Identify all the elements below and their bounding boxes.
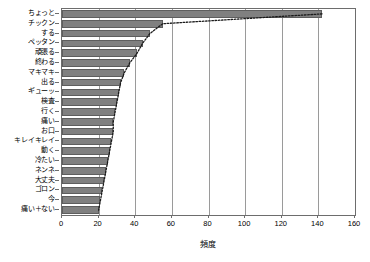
y-axis-label: 検査 xyxy=(41,97,55,105)
x-axis-tick-label: 40 xyxy=(130,219,138,228)
y-axis-tick xyxy=(55,23,59,24)
pareto-chart: ちょっとチックンするペッタン頑張る終わるマキマキ出るギューッ検査行く痛いお口キレ… xyxy=(0,0,370,262)
bar xyxy=(62,98,117,106)
bar xyxy=(62,196,100,204)
y-axis-label: ネンネ xyxy=(35,166,55,174)
y-axis-tick xyxy=(55,52,59,53)
bar xyxy=(62,30,150,38)
y-axis-tick xyxy=(55,111,59,112)
x-axis-tick-label: 120 xyxy=(274,219,287,228)
bar xyxy=(62,20,163,28)
y-axis-label: 今 xyxy=(48,195,55,203)
gridline-120 xyxy=(282,9,283,215)
x-axis-tick xyxy=(354,215,355,218)
y-axis-tick xyxy=(55,140,59,141)
y-axis-tick xyxy=(55,91,59,92)
bar xyxy=(62,10,322,18)
bar xyxy=(62,177,104,185)
gridline-100 xyxy=(245,9,246,215)
x-axis-tick xyxy=(61,215,62,218)
y-axis-tick xyxy=(55,62,59,63)
y-axis-label: 痛い xyxy=(41,117,55,125)
y-axis-tick xyxy=(55,131,59,132)
y-axis-label: 終わる xyxy=(35,58,55,66)
x-axis-tick-label: 20 xyxy=(93,219,101,228)
y-axis-label: 大丈夫 xyxy=(35,176,55,184)
bar xyxy=(62,40,143,48)
x-axis-tick-label: 140 xyxy=(311,219,324,228)
bar xyxy=(62,49,137,57)
bar xyxy=(62,157,108,165)
bar xyxy=(62,138,111,146)
y-axis-tick xyxy=(55,209,59,210)
y-axis-label: ちょっと xyxy=(28,9,55,17)
x-axis-tick-label: 80 xyxy=(203,219,211,228)
bar xyxy=(62,79,121,87)
y-axis-tick xyxy=(55,170,59,171)
y-axis-tick xyxy=(55,72,59,73)
gridline-80 xyxy=(209,9,210,215)
bar xyxy=(62,108,115,116)
y-axis-tick xyxy=(55,121,59,122)
y-axis-tick xyxy=(55,13,59,14)
y-axis-label: 動く xyxy=(41,146,55,154)
x-axis-tick xyxy=(208,215,209,218)
y-axis-label: お口 xyxy=(41,127,55,135)
y-axis-label: 冷たい xyxy=(35,156,55,164)
plot-area xyxy=(61,8,356,216)
x-axis-tick-label: 0 xyxy=(59,219,63,228)
gridline-140 xyxy=(318,9,319,215)
y-axis-label: ペッタン xyxy=(28,38,55,46)
y-axis-label: キレイキレイ xyxy=(14,136,55,144)
y-axis-label: 出る xyxy=(41,78,55,86)
y-axis-label: マキマキ xyxy=(28,68,55,76)
x-axis-tick xyxy=(317,215,318,218)
y-axis-tick xyxy=(55,82,59,83)
x-axis-ticks: 020406080100120140160 xyxy=(61,215,354,237)
y-axis-label: チックン xyxy=(28,19,55,27)
x-axis-tick-label: 60 xyxy=(167,219,175,228)
bar xyxy=(62,128,113,136)
bar xyxy=(62,118,113,126)
y-axis-labels: ちょっとチックンするペッタン頑張る終わるマキマキ出るギューッ検査行く痛いお口キレ… xyxy=(0,8,58,214)
gridline-60 xyxy=(172,9,173,215)
bar xyxy=(62,187,102,195)
y-axis-tick xyxy=(55,180,59,181)
y-axis-label: ゴロン xyxy=(35,185,55,193)
y-axis-tick xyxy=(55,199,59,200)
y-axis-tick xyxy=(55,42,59,43)
x-axis-tick xyxy=(281,215,282,218)
y-axis-tick xyxy=(55,160,59,161)
bar xyxy=(62,167,106,175)
bar xyxy=(62,69,124,77)
y-axis-tick xyxy=(55,101,59,102)
y-axis-tick xyxy=(55,189,59,190)
bar xyxy=(62,89,119,97)
y-axis-label: ギューッ xyxy=(28,87,55,95)
bar xyxy=(62,147,110,155)
x-axis-title: 頻度 xyxy=(61,238,354,249)
x-axis-tick xyxy=(244,215,245,218)
x-axis-tick-label: 100 xyxy=(238,219,251,228)
bar xyxy=(62,59,130,67)
x-axis-tick-label: 160 xyxy=(348,219,361,228)
y-axis-label: 行く xyxy=(41,107,55,115)
y-axis-label: 痛い＋ない xyxy=(21,205,55,213)
y-axis-tick xyxy=(55,33,59,34)
y-axis-label: する xyxy=(41,29,55,37)
y-axis-label: 頑張る xyxy=(35,48,55,56)
x-axis-tick xyxy=(134,215,135,218)
x-axis-tick xyxy=(171,215,172,218)
x-axis-tick xyxy=(98,215,99,218)
bar xyxy=(62,206,99,214)
y-axis-tick xyxy=(55,150,59,151)
